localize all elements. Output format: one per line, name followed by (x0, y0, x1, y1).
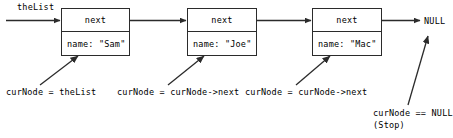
stop-annotation-line-2: (Stop) (373, 120, 405, 131)
annotation-label-2: curNode = curNode->next (117, 87, 239, 98)
linked-list-diagram: theList next name: "Sam" next name: "Joe… (0, 0, 453, 138)
node-2-name-label: name: "Joe" (193, 39, 252, 49)
arrow-annotation-2 (168, 56, 204, 85)
node-3-next-field: next (313, 9, 381, 32)
node-3-name-field: name: "Mac" (313, 32, 381, 56)
node-3-name-label: name: "Mac" (318, 39, 377, 49)
node-2-name-field: name: "Joe" (188, 32, 256, 56)
null-terminator-label: NULL (424, 16, 445, 27)
node-1-name-field: name: "Sam" (62, 32, 129, 56)
node-1-name-label: name: "Sam" (67, 39, 126, 49)
thelist-label: theList (17, 2, 54, 13)
arrow-annotation-stop (408, 36, 428, 105)
stop-annotation-line-1: curNode == NULL (373, 108, 453, 119)
node-1-next-field: next (62, 9, 129, 32)
arrow-annotation-3 (296, 56, 330, 85)
node-3-next-label: next (336, 15, 357, 25)
list-node-3: next name: "Mac" (312, 8, 382, 56)
list-node-2: next name: "Joe" (187, 8, 257, 56)
node-2-next-field: next (188, 9, 256, 32)
annotation-label-1: curNode = theList (6, 87, 96, 98)
node-1-next-label: next (85, 15, 106, 25)
arrow-annotation-1 (40, 56, 78, 85)
annotation-label-3: curNode = curNode->next (245, 87, 367, 98)
node-2-next-label: next (211, 15, 232, 25)
list-node-1: next name: "Sam" (61, 8, 130, 56)
